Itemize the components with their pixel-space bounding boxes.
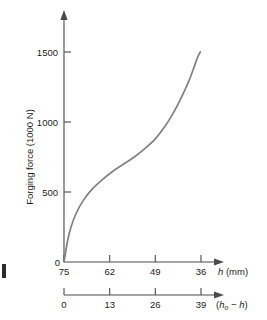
x-axis-secondary: 0 13 26 39 (ho − h) <box>61 288 247 311</box>
x2-tick-label-13: 13 <box>104 299 115 310</box>
x-tick-label-49: 49 <box>150 266 161 277</box>
y-axis-arrowhead <box>60 10 67 20</box>
x-axis-secondary-title: (ho − h) <box>216 299 248 311</box>
x-axis-secondary-arrowhead <box>214 292 224 299</box>
y-tick-label-1000: 1000 <box>37 117 58 128</box>
x-tick-label-36: 36 <box>196 266 207 277</box>
forging-force-curve <box>64 52 200 262</box>
y-tick-label-500: 500 <box>42 187 58 198</box>
x2-tick-label-0: 0 <box>61 299 66 310</box>
y-axis: 1500 1000 500 0 Forging force (1000 N) <box>24 10 71 268</box>
x-tick-label-75: 75 <box>59 266 70 277</box>
forging-force-chart: 1500 1000 500 0 Forging force (1000 N) 7… <box>0 0 267 320</box>
y-axis-title: Forging force (1000 N) <box>24 109 35 205</box>
y-tick-label-1500: 1500 <box>37 47 58 58</box>
x-tick-label-62: 62 <box>104 266 115 277</box>
x2-tick-label-26: 26 <box>150 299 161 310</box>
x-axis-primary: 75 62 49 36 h (mm) <box>59 255 248 277</box>
figure-root: 1500 1000 500 0 Forging force (1000 N) 7… <box>0 0 267 320</box>
x-axis-primary-title: h (mm) <box>218 266 248 277</box>
x2-tick-label-39: 39 <box>196 299 207 310</box>
x-axis-primary-arrowhead <box>214 259 224 266</box>
figure-edge-mark <box>2 264 6 278</box>
